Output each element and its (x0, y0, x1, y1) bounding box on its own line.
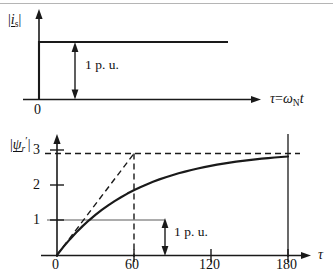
pu-label-top: 1 p. u. (85, 58, 119, 72)
x-axis-arrowhead (251, 96, 261, 103)
flux-response-curve (57, 157, 288, 256)
pu-arrowhead-down (72, 90, 79, 100)
pu-arrowhead-down-bottom (162, 246, 169, 256)
y-axis-arrowhead (35, 9, 42, 19)
x-axis-label-top: τ=ωNt (270, 92, 304, 108)
pu-arrowhead-up (72, 42, 79, 52)
y-axis-label-current: |is| (8, 13, 21, 29)
step-signal-trace (39, 42, 228, 100)
x-axis-arrowhead (301, 252, 311, 259)
y-tick-label-2: 2 (33, 178, 40, 192)
x-tick-label-180: 180 (276, 258, 297, 272)
rotor-flux-plot (0, 120, 333, 279)
origin-label-top: 0 (34, 103, 41, 117)
pu-label-bottom: 1 p. u. (174, 225, 208, 239)
y-axis-label-flux: |ψr′| (10, 135, 30, 154)
x-tick-label-0: 0 (52, 258, 59, 272)
flux-symbol: ψ (13, 138, 22, 152)
x-tick-label-60: 60 (125, 258, 139, 272)
y-tick-label-1: 1 (33, 213, 40, 227)
panel-rotor-flux: |ψr′| 1 2 3 0 60 120 180 1 p. u. τ (0, 120, 333, 279)
y-tick-label-3: 3 (33, 143, 40, 157)
panel-stator-current: |is| 0 1 p. u. τ=ωNt (0, 0, 333, 120)
figure-root: |is| 0 1 p. u. τ=ωNt (0, 0, 333, 279)
x-axis-label-bottom: τ (318, 248, 323, 262)
y-axis-arrowhead (53, 134, 60, 144)
x-tick-label-120: 120 (199, 258, 220, 272)
